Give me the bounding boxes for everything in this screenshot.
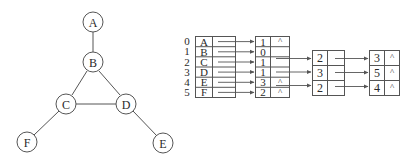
svg-text:3: 3 [374,51,380,65]
vertex-table-labels: A B C D E F [200,36,208,99]
edge-nodes-level2-values: 2 3 2 [317,51,323,95]
svg-text:5: 5 [184,86,190,98]
graph-edges [34,32,157,136]
svg-text:3: 3 [317,66,323,80]
edge-d-e [133,111,157,136]
svg-text:2: 2 [260,86,266,98]
edge-b-d [99,71,120,95]
index-labels: 0 1 2 3 4 5 [184,35,190,98]
graph-vertices: A B C D E F [17,12,173,153]
svg-text:2: 2 [317,81,323,95]
svg-text:C: C [62,98,70,112]
svg-text:5: 5 [374,66,380,80]
svg-text:B: B [89,56,97,70]
svg-text:^: ^ [390,52,395,62]
edge-b-c [72,71,87,95]
edge-nodes-level3-values: 3 5 4 [374,51,380,95]
vertex-d: D [116,94,136,114]
vertex-e: E [153,133,173,153]
edge-nodes-level1-values: 1 0 1 1 3 2 [260,36,266,99]
svg-text:^: ^ [278,87,283,97]
pointer-arrows-level3 [335,59,368,87]
svg-text:A: A [89,16,98,30]
vertex-a: A [83,12,103,32]
adjacency-diagram: A B C D E F 0 1 2 3 4 5 [0,0,414,164]
svg-text:^: ^ [278,36,283,46]
vertex-f: F [17,132,37,152]
vertex-c: C [56,94,76,114]
svg-text:F: F [24,136,31,150]
null-markers-level3: ^ ^ ^ [390,52,395,92]
edge-c-f [34,111,59,135]
svg-text:F: F [201,86,207,98]
svg-text:^: ^ [390,82,395,92]
svg-text:^: ^ [390,67,395,77]
vertex-b: B [83,52,103,72]
svg-text:2: 2 [317,51,323,65]
svg-text:E: E [159,137,166,151]
svg-text:4: 4 [374,81,380,95]
svg-text:D: D [122,98,131,112]
